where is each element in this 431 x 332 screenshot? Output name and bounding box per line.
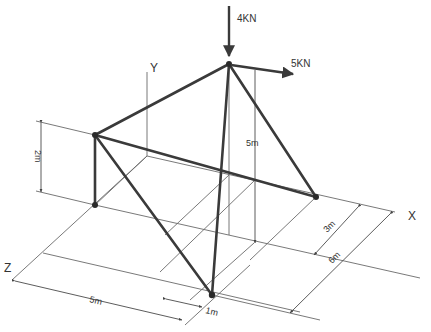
ground-grid xyxy=(12,64,420,325)
construction-line xyxy=(250,197,316,260)
node-bottom xyxy=(209,292,215,298)
construction-line xyxy=(36,121,95,135)
member-apex-bottom xyxy=(212,64,229,295)
construction-line xyxy=(185,265,250,325)
dim-5m-z-label: 5m xyxy=(89,294,103,307)
x-axis-label: X xyxy=(408,209,416,223)
dim-1m-line xyxy=(166,299,202,307)
dim-5m-height-label: 5m xyxy=(246,138,259,148)
member-left-bottom xyxy=(95,135,212,295)
dim-1m-label: 1m xyxy=(205,305,219,318)
construction-line xyxy=(95,156,147,205)
load-4kn-label: 4KN xyxy=(237,13,256,24)
dim-6m-line xyxy=(290,214,390,313)
node-left-base xyxy=(92,202,98,208)
construction-line xyxy=(36,191,95,205)
load-5kn-arrow xyxy=(231,65,293,74)
node-left-top xyxy=(92,132,98,138)
member-apex-left xyxy=(95,64,229,135)
truss-members xyxy=(95,64,316,295)
truss-diagram: 4KN 5KN Y X Z 2m 5m 3m 6m 5m 1m xyxy=(0,0,431,332)
dim-2m-label: 2m xyxy=(33,150,43,163)
y-axis-label: Y xyxy=(150,61,158,75)
load-5kn-label: 5KN xyxy=(291,58,310,69)
z-axis-label: Z xyxy=(4,261,11,275)
dim-3m-line xyxy=(314,207,358,255)
construction-line xyxy=(43,253,300,312)
labels: 4KN 5KN Y X Z 2m 5m 3m 6m 5m 1m xyxy=(4,13,416,318)
construction-line xyxy=(95,205,420,278)
node-right xyxy=(313,194,319,200)
